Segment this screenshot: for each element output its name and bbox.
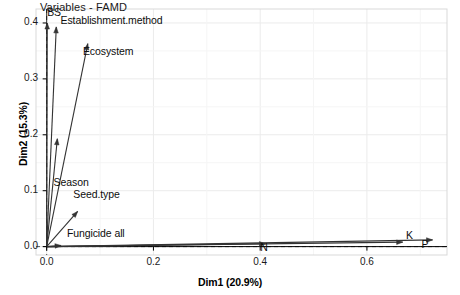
x-tick-label: 0.6	[347, 256, 387, 267]
variable-label: K	[406, 229, 413, 241]
variable-label: BS	[47, 6, 61, 18]
x-tick-label: 0.0	[27, 256, 67, 267]
y-tick-label: 0.1	[8, 184, 38, 195]
variable-label: Fungicide all	[67, 227, 125, 239]
y-tick-label: 0.2	[8, 128, 38, 139]
x-axis-label: Dim1 (20.9%)	[0, 276, 460, 288]
variable-label: Seed.type	[73, 188, 119, 200]
variable-label: Establishment.method	[61, 14, 163, 26]
x-tick-label: 0.4	[240, 256, 280, 267]
variable-label: Ecosystem	[83, 45, 133, 57]
y-tick-label: 0.4	[8, 16, 38, 27]
variable-label: Season	[54, 176, 89, 188]
plot-canvas	[0, 0, 460, 295]
variable-label: P	[421, 238, 428, 250]
famd-variables-chart: Variables - FAMD Dim1 (20.9%) Dim2 (15.3…	[0, 0, 460, 295]
variable-label: N	[260, 241, 267, 253]
y-tick-label: 0.0	[8, 240, 38, 251]
x-tick-label: 0.2	[133, 256, 173, 267]
y-tick-label: 0.3	[8, 72, 38, 83]
